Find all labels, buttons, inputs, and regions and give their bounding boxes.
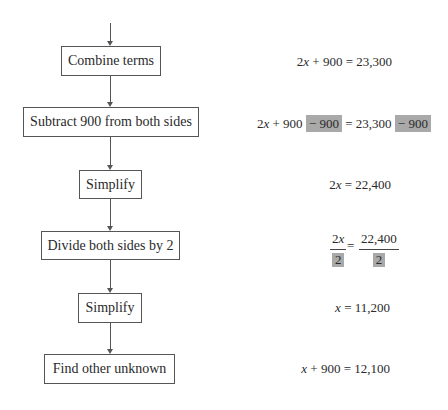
- step-subtract: Subtract 900 from both sides: [23, 107, 199, 137]
- step-label: Simplify: [85, 300, 134, 316]
- step-label: Subtract 900 from both sides: [30, 114, 192, 130]
- denominator-highlighted: 2: [373, 253, 386, 267]
- equation-5: x = 11,200: [335, 300, 390, 316]
- equation-2: 2x + 900 − 900 = 23,300 − 900: [257, 116, 431, 132]
- connector-line: [110, 137, 111, 165]
- connector-line: [110, 23, 111, 41]
- equation-1: 2x + 900 = 23,300: [297, 54, 392, 70]
- variable: x: [339, 231, 345, 246]
- connector-line: [110, 76, 111, 102]
- connector-line: [110, 260, 111, 288]
- step-label: Find other unknown: [53, 361, 167, 377]
- fraction-equals: =: [347, 238, 354, 254]
- step-combine-terms: Combine terms: [61, 46, 161, 76]
- equation-6: x + 900 = 12,100: [301, 361, 390, 377]
- equation-rest: + 900 = 23,300: [309, 54, 392, 69]
- numerator: 2x: [330, 231, 346, 250]
- equation-3: 2x = 22,400: [329, 177, 391, 193]
- equation-rest: = 11,200: [341, 300, 390, 315]
- numerator: 22,400: [359, 231, 399, 250]
- equation-rest: = 22,400: [341, 177, 391, 192]
- equation-rest: + 900 = 12,100: [307, 361, 390, 376]
- step-divide: Divide both sides by 2: [41, 231, 180, 260]
- highlighted-term: − 900: [395, 115, 431, 132]
- equation-part: = 23,300: [342, 116, 395, 131]
- step-simplify-1: Simplify: [79, 170, 142, 199]
- equation-part: + 900: [269, 116, 306, 131]
- step-label: Combine terms: [68, 53, 154, 69]
- highlighted-term: − 900: [306, 115, 342, 132]
- fraction-right: 22,400 2: [359, 231, 399, 267]
- step-label: Divide both sides by 2: [48, 238, 174, 254]
- fraction-left: 2x 2: [330, 231, 346, 267]
- step-label: Simplify: [86, 177, 135, 193]
- connector-line: [110, 199, 111, 226]
- step-simplify-2: Simplify: [78, 293, 142, 323]
- denominator-highlighted: 2: [332, 253, 345, 267]
- connector-line: [110, 323, 111, 349]
- step-find-other-unknown: Find other unknown: [44, 354, 175, 384]
